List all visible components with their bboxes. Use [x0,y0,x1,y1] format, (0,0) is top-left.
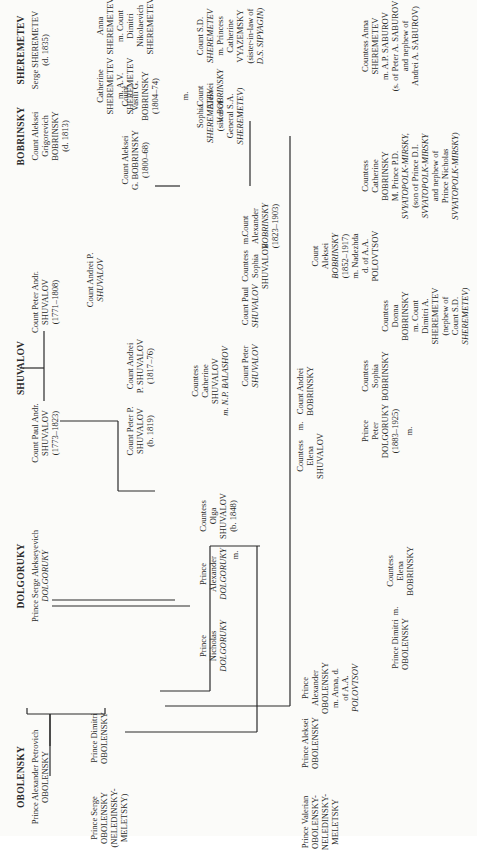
node-serge-sheremetev: Serge SHEREMETEV (d. 1835) [30,11,50,89]
family-heading-shuvalov: SHUVALOV [16,341,26,395]
node-dimitri-obolensky-2: Prince Dimitri OBOLENSKY [390,618,410,670]
node-catherine-sheremetev: Catherine SHEREMETEV m. A.V. SHEREMETEV [95,58,135,115]
family-heading-bobrinsky: BOBRINSKY [16,107,26,166]
node-nicholas-dolgoruky: Prince Nicholas DOLGORUKY [198,620,228,672]
node-peter-andr-shuvalov: Count Peter Andr. SHUVALOV (1771–1808) [30,271,60,333]
family-heading-sheremetev: SHEREMETEV [16,15,26,84]
node-dimitri-obolensky: Prince Dimitri OBOLENSKY [89,712,109,764]
node-valerian-obolensky: Prince Valerian OBOLENSKY- NELEDINSKY- M… [300,794,340,850]
node-alexander-obolensky: Prince Alexander OBOLENSKY m. Anna, d. o… [300,662,360,714]
marriage-marker: m. [390,607,400,616]
node-aleksei-bobrinsky-1852: Count Aleksei BOBRINSKY (1852–1917) m. N… [310,230,380,281]
node-alexander-petrovich-obolensky: Prince Alexander Petrovich OBOLENSKY [30,730,50,825]
node-paul-andr-shuvalov: Count Paul Andr. SHUVALOV (1773–1823) [30,403,60,462]
node-catherine-bobrinsky: Countess Catherine BOBRINSKY M. Prince P… [360,132,460,219]
node-peter-p-shuvalov: Count Peter P. SHUVALOV (b. 1819) [125,407,155,456]
node-olga-shuvalov: Countess Olga SHUVALOV (b. 1848) [198,493,238,539]
node-aleksei-g-bobrinsky: Count Aleksei G. BOBRINSKY (1800–68) [120,130,150,190]
node-elena-shuvalov: Countess Elena SHUVALOV [295,433,325,479]
node-elena-bobrinsky: Countess Elena BOBRINSKY [385,546,415,596]
node-serge-obolensky: Prince Serge OBOLENSKY (NELEDINSKY- MELE… [89,788,129,847]
node-alexander-bobrinsky: Count Alexander BOBRINSKY (1823–1903) [240,203,280,248]
node-peter-dolgoruky: Prince Peter DOLGORUKY (1883–1925) [360,404,400,458]
node-donna-bobrinsky: Countess Donna BOBRINSKY m. Count Dimitr… [380,288,470,345]
marriage-marker: m. [404,427,414,436]
node-anna-sheremetev-2: Countess Anna SHEREMETEV m. A.P. SABUROV… [360,1,420,92]
node-andrei-p-shuvalov: Count Andrei P. SHUVALOV [85,253,105,308]
node-serge-dolgoruky: Prince Serge Alekseyevich DOLGORUKY [30,530,50,622]
node-alexander-dolgoruky: Prince Alexander DOLGORUKY [198,548,228,600]
node-andrei-bobrinsky: Count Andrei BOBRINSKY [295,366,315,416]
node-catherine-shuvalov: Countess Catherine SHUVALOV m. N.P. BALA… [190,346,230,415]
node-aleksei-obolensky: Prince Aleksei OBOLENSKY [300,717,320,769]
family-heading-dolgoruky: DOLGORUKY [16,543,26,608]
marriage-marker: m. [295,422,305,431]
node-andrei-p-shuvalov-1817: Count Andrei P. SHUVALOV (1817–76) [125,339,155,393]
family-heading-obolensky: OBOLENSKY [16,746,26,808]
node-anna-sheremetev: Anna SHEREMETEV m. Count Dimitri Nikolae… [95,0,155,54]
node-paul-shuvalov-jr: Count Paul SHUVALOV [240,285,260,328]
node-aleksei-grigorevich-bobrinsky: Count Aleksei Grigorevich BOBRINSKY (d. … [30,111,70,161]
node-sophia-sheremetev: Sophia SHEREMETEV (sister of General S.A… [195,88,245,145]
marriage-marker: m. [180,92,190,101]
node-sophia-shuvalov: Countess Sophia SHUVALOV [240,243,270,289]
node-peter-shuvalov-jr: Count Peter SHUVALOV [240,345,260,388]
node-sd-sheremetev: Count S.D. SHEREMETEV m. Princess Cather… [195,8,265,64]
marriage-marker: m. [230,551,240,560]
node-sophia-bobrinsky: Countess Sophia BOBRINSKY [360,351,390,401]
